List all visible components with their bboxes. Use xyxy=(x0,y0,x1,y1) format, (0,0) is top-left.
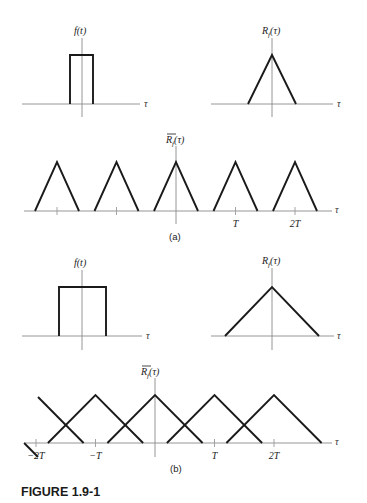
part-a-periodic-tick-label: T xyxy=(233,218,240,229)
part-a-periodic-triangle xyxy=(273,162,317,211)
part-a-pulse-rect xyxy=(70,55,93,104)
part-a-periodic-triangle xyxy=(94,162,138,211)
part-b-periodic-xlabel: τ xyxy=(335,436,339,447)
part-b-periodic-triangles xyxy=(24,395,322,457)
part-a-autocorr-ylabel: Rf(τ) xyxy=(261,25,281,39)
part-b-autocorr-xlabel: τ xyxy=(337,330,341,341)
part-a-periodic-plot: T2T Rf(τ) τ (a) xyxy=(24,134,339,242)
part-b-periodic-ylabel: Rf(τ) xyxy=(140,366,160,380)
part-a-periodic-triangle xyxy=(213,162,257,211)
part-b-autocorr-ylabel: Rf(τ) xyxy=(261,255,281,269)
part-b-pulse-rect xyxy=(59,287,106,336)
part-b-pulse-ylabel: f(t) xyxy=(74,257,87,269)
part-b-periodic-triangle xyxy=(226,395,321,443)
part-a-periodic-ylabel: Rf(τ) xyxy=(165,134,185,148)
part-b-periodic-tick-label: 2T xyxy=(269,450,281,461)
part-b-pulse-xlabel: τ xyxy=(146,330,150,341)
part-a-pulse-plot: f(t) τ xyxy=(22,25,148,117)
part-a-periodic-triangle xyxy=(35,162,79,211)
part-b-periodic-triangle xyxy=(48,395,143,443)
figure-caption: FIGURE 1.9-1 xyxy=(21,485,100,499)
part-b-periodic-triangle xyxy=(38,397,84,443)
part-a-autocorr-xlabel: τ xyxy=(337,98,341,109)
part-b-autocorr-plot: Rf(τ) τ xyxy=(211,255,341,350)
part-b-periodic-triangle xyxy=(167,395,262,443)
part-b-periodic-tick-label: −T xyxy=(89,450,103,461)
part-a-pulse-ylabel: f(t) xyxy=(74,25,87,37)
part-b-label: (b) xyxy=(170,463,182,474)
part-a-pulse-xlabel: τ xyxy=(144,98,148,109)
part-a-periodic-ticks: T2T xyxy=(57,207,302,229)
part-a-label: (a) xyxy=(169,231,181,242)
part-b-periodic-tick-label: T xyxy=(212,450,219,461)
part-a-periodic-tick-label: 2T xyxy=(290,218,302,229)
part-a-autocorr-plot: Rf(τ) τ xyxy=(211,25,341,117)
figure-canvas: f(t) τ Rf(τ) τ T2T Rf(τ) τ (a) f(t) τ Rf… xyxy=(0,0,367,503)
part-a-periodic-xlabel: τ xyxy=(335,204,339,215)
part-b-periodic-ticks: −2T−TT2T xyxy=(27,439,280,461)
part-b-pulse-plot: f(t) τ xyxy=(22,257,150,350)
part-b-periodic-plot: −2T−TT2T Rf(τ) τ (b) xyxy=(24,366,339,474)
